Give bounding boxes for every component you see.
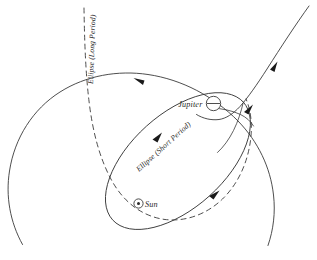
sun-marker-icon bbox=[134, 199, 143, 208]
long-period-dashed-path bbox=[84, 8, 251, 220]
jupiter-marker-icon bbox=[206, 96, 220, 110]
arrow-long-period-top-icon bbox=[134, 78, 145, 85]
label-long-period: Ellipse (Long Period) bbox=[86, 14, 97, 85]
label-sun: Sun bbox=[145, 200, 158, 209]
label-jupiter: Jupiter bbox=[178, 100, 203, 109]
arrow-short-period-upper-icon bbox=[153, 133, 163, 143]
long-period-orbit-path bbox=[8, 73, 274, 246]
label-short-period: Ellipse (Short Period) bbox=[134, 119, 193, 174]
diagram-canvas: Ellipse (Long Period) Ellipse (Short Per… bbox=[0, 0, 317, 260]
orbital-diagram: Ellipse (Long Period) Ellipse (Short Per… bbox=[0, 0, 317, 260]
